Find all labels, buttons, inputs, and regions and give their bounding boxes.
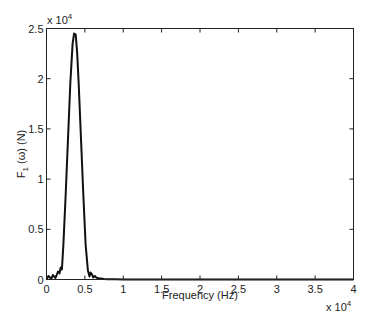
y-tick-label: 2 (37, 73, 43, 85)
y-axis-multiplier: x 104 (47, 12, 73, 26)
y-tick-label: 2.5 (28, 23, 43, 35)
plot-area (47, 29, 354, 280)
x-tick-label: 0 (43, 283, 49, 295)
x-tick-label: 3 (274, 283, 280, 295)
svg-text:F1 (ω) (N): F1 (ω) (N) (15, 130, 30, 178)
x-tick-label: 3.5 (307, 283, 322, 295)
x-tick-label: 1 (120, 283, 126, 295)
x-tick-label: 0.5 (77, 283, 92, 295)
y-tick-label: 1.5 (28, 123, 43, 135)
y-axis-label: F1 (ω) (N) (15, 130, 30, 178)
x-tick-label: 4 (350, 283, 356, 295)
y-tick-label: 1 (37, 173, 43, 185)
svg-text:x 104: x 104 (47, 12, 73, 26)
chart: 00.511.522.533.54 00.511.522.5 Frequency… (0, 0, 370, 326)
y-tick-label: 0.5 (28, 223, 43, 235)
x-axis-multiplier: x 104 (326, 299, 352, 313)
svg-text:x 104: x 104 (326, 299, 352, 313)
x-axis-label: Frequency (Hz) (162, 289, 238, 301)
y-tick-label: 0 (37, 274, 43, 286)
